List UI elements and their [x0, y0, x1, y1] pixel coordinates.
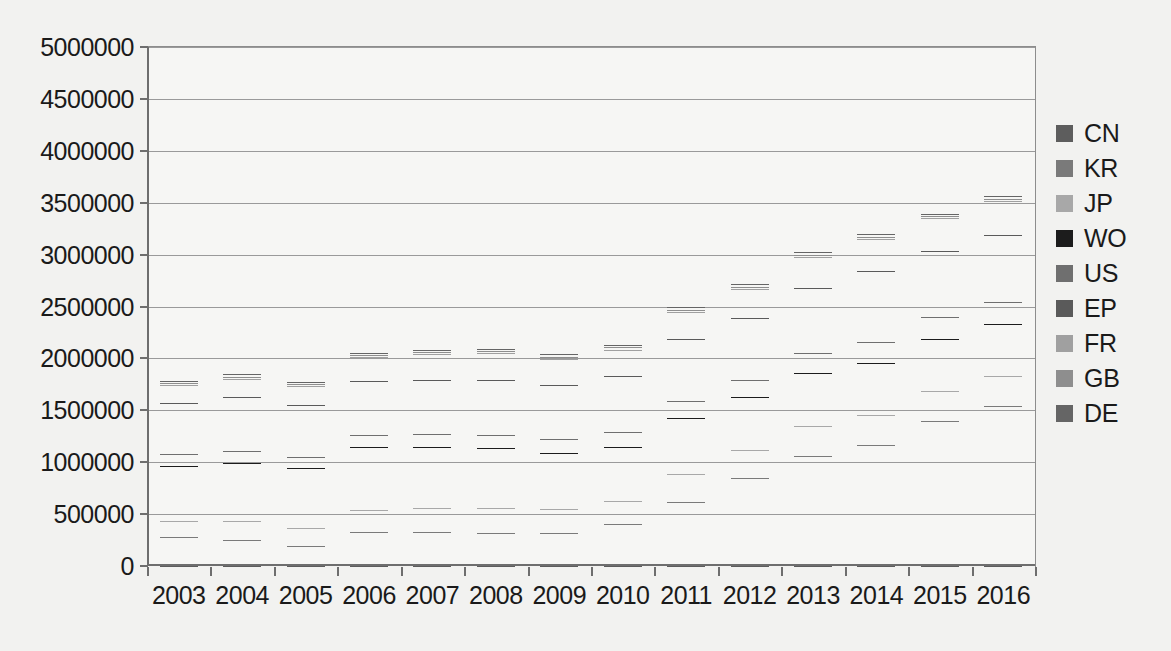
bar-segment-US[interactable]	[477, 435, 515, 436]
bar-segment-WO[interactable]	[667, 418, 705, 419]
bar-segment-EP[interactable]	[477, 380, 515, 381]
bar-segment-FR[interactable]	[857, 239, 895, 240]
bar-segment-US[interactable]	[350, 435, 388, 436]
bar-2009[interactable]	[540, 312, 578, 566]
bar-segment-EP[interactable]	[223, 397, 261, 398]
legend-item-GB[interactable]: GB	[1056, 361, 1126, 396]
bar-segment-DE[interactable]	[287, 382, 325, 383]
bar-2003[interactable]	[160, 377, 198, 566]
bar-segment-US[interactable]	[667, 401, 705, 402]
bar-segment-CN[interactable]	[921, 566, 959, 567]
bar-segment-GB[interactable]	[350, 355, 388, 356]
bar-segment-GB[interactable]	[667, 310, 705, 311]
bar-segment-KR[interactable]	[731, 478, 769, 479]
bar-segment-WO[interactable]	[604, 447, 642, 448]
bar-segment-CN[interactable]	[794, 566, 832, 567]
bar-segment-KR[interactable]	[223, 540, 261, 541]
bar-segment-US[interactable]	[984, 302, 1022, 303]
bar-segment-GB[interactable]	[540, 357, 578, 358]
bar-segment-JP[interactable]	[794, 426, 832, 427]
bar-segment-EP[interactable]	[921, 251, 959, 252]
bar-segment-DE[interactable]	[921, 214, 959, 215]
bar-segment-JP[interactable]	[477, 508, 515, 509]
legend-item-CN[interactable]: CN	[1056, 116, 1126, 151]
bar-segment-FR[interactable]	[667, 312, 705, 313]
bar-segment-CN[interactable]	[160, 566, 198, 567]
bar-segment-DE[interactable]	[477, 349, 515, 350]
bar-segment-FR[interactable]	[921, 218, 959, 219]
bar-2004[interactable]	[223, 364, 261, 566]
bar-segment-JP[interactable]	[921, 391, 959, 392]
bar-segment-KR[interactable]	[540, 533, 578, 534]
legend-item-DE[interactable]: DE	[1056, 396, 1126, 431]
bar-segment-GB[interactable]	[223, 377, 261, 378]
bar-segment-GB[interactable]	[477, 351, 515, 352]
bar-segment-US[interactable]	[794, 353, 832, 354]
bar-segment-EP[interactable]	[540, 385, 578, 386]
bar-segment-DE[interactable]	[604, 345, 642, 346]
bar-segment-US[interactable]	[731, 380, 769, 381]
bar-segment-DE[interactable]	[223, 374, 261, 375]
bar-segment-EP[interactable]	[287, 405, 325, 406]
bar-segment-KR[interactable]	[350, 532, 388, 533]
bar-segment-FR[interactable]	[731, 289, 769, 290]
bar-segment-CN[interactable]	[731, 566, 769, 567]
bar-segment-EP[interactable]	[794, 288, 832, 289]
bar-2008[interactable]	[477, 319, 515, 566]
bar-segment-EP[interactable]	[857, 271, 895, 272]
bar-segment-JP[interactable]	[731, 450, 769, 451]
bar-segment-FR[interactable]	[413, 354, 451, 355]
bar-segment-WO[interactable]	[413, 447, 451, 448]
bar-segment-JP[interactable]	[287, 528, 325, 529]
bar-segment-US[interactable]	[160, 454, 198, 455]
bar-segment-JP[interactable]	[857, 415, 895, 416]
bar-segment-WO[interactable]	[857, 363, 895, 364]
bar-segment-KR[interactable]	[794, 456, 832, 457]
bar-segment-JP[interactable]	[984, 376, 1022, 377]
bar-segment-WO[interactable]	[350, 447, 388, 448]
legend-item-KR[interactable]: KR	[1056, 151, 1126, 186]
bar-segment-DE[interactable]	[350, 353, 388, 354]
bar-segment-KR[interactable]	[477, 533, 515, 534]
bar-segment-CN[interactable]	[857, 566, 895, 567]
bar-2015[interactable]	[921, 125, 959, 566]
bar-2012[interactable]	[731, 218, 769, 566]
bar-segment-US[interactable]	[287, 457, 325, 458]
bar-segment-DE[interactable]	[794, 252, 832, 253]
bar-segment-JP[interactable]	[350, 510, 388, 511]
bar-segment-US[interactable]	[413, 434, 451, 435]
bar-segment-GB[interactable]	[857, 237, 895, 238]
bar-segment-WO[interactable]	[223, 463, 261, 464]
bar-segment-CN[interactable]	[984, 566, 1022, 567]
bar-segment-CN[interactable]	[604, 566, 642, 567]
bar-segment-KR[interactable]	[160, 537, 198, 538]
bar-segment-CN[interactable]	[477, 566, 515, 567]
bar-segment-WO[interactable]	[984, 324, 1022, 325]
bar-segment-DE[interactable]	[413, 350, 451, 351]
bar-segment-EP[interactable]	[413, 380, 451, 381]
bar-segment-KR[interactable]	[413, 532, 451, 533]
bar-segment-DE[interactable]	[667, 307, 705, 308]
bar-segment-JP[interactable]	[604, 501, 642, 502]
bar-segment-JP[interactable]	[667, 474, 705, 475]
bar-segment-FR[interactable]	[540, 359, 578, 360]
legend-item-JP[interactable]: JP	[1056, 186, 1126, 221]
legend-item-US[interactable]: US	[1056, 256, 1126, 291]
bar-2016[interactable]	[984, 105, 1022, 566]
bar-segment-CN[interactable]	[667, 566, 705, 567]
bar-segment-EP[interactable]	[731, 318, 769, 319]
bar-segment-KR[interactable]	[984, 406, 1022, 407]
bar-segment-GB[interactable]	[160, 383, 198, 384]
bar-segment-GB[interactable]	[794, 255, 832, 256]
bar-segment-KR[interactable]	[667, 502, 705, 503]
bar-2011[interactable]	[667, 257, 705, 566]
bar-segment-FR[interactable]	[160, 385, 198, 386]
bar-segment-US[interactable]	[223, 451, 261, 452]
bar-segment-GB[interactable]	[604, 347, 642, 348]
bar-segment-US[interactable]	[540, 439, 578, 440]
bar-segment-WO[interactable]	[731, 397, 769, 398]
bar-segment-FR[interactable]	[604, 350, 642, 351]
bar-segment-CN[interactable]	[223, 566, 261, 567]
bar-segment-WO[interactable]	[921, 339, 959, 340]
legend-item-FR[interactable]: FR	[1056, 326, 1126, 361]
